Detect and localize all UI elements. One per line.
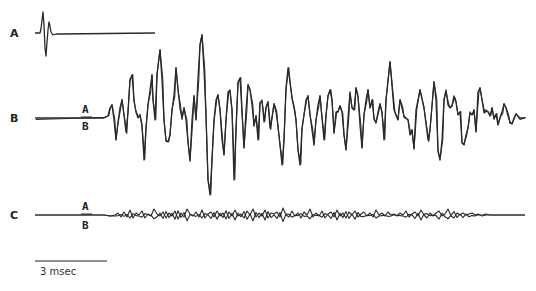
trace-c-label: C <box>10 209 18 222</box>
trace-b-overlay-b-label: B <box>82 120 89 133</box>
trace-a-label: A <box>10 27 19 40</box>
trace-b-overlay-waveform <box>36 35 526 195</box>
waveform-figure: A B C A B A B 3 msec <box>0 0 536 291</box>
trace-b-overlay-a-label: A <box>82 103 89 116</box>
trace-b-label: B <box>10 112 18 125</box>
trace-c-overlay-a-label: A <box>82 200 89 213</box>
trace-a-waveform <box>35 12 155 56</box>
trace-c-overlay-b-label: B <box>82 219 89 232</box>
scale-bar-label: 3 msec <box>40 266 76 277</box>
